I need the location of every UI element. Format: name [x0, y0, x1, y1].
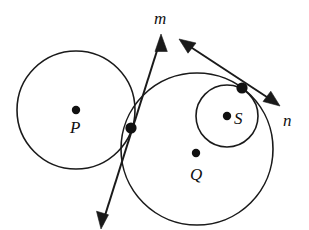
label-n: n [283, 111, 292, 130]
label-p: P [69, 118, 80, 137]
geometry-figure: m n P Q S [0, 0, 309, 230]
label-m: m [154, 9, 166, 28]
center-point-s [223, 112, 231, 120]
center-point-q [192, 149, 200, 157]
line-m-arrowhead-upper [155, 34, 167, 52]
label-q: Q [190, 165, 202, 184]
line-n-arrowhead-upper [179, 39, 196, 53]
tangency-point-qs [236, 82, 247, 93]
tangency-point-pq [125, 122, 136, 133]
line-n-arrowhead-lower [263, 91, 280, 106]
line-m-arrowhead-lower [97, 211, 109, 229]
center-point-p [72, 106, 80, 114]
geometry-diagram-canvas: m n P Q S [0, 0, 309, 230]
label-s: S [234, 109, 243, 128]
